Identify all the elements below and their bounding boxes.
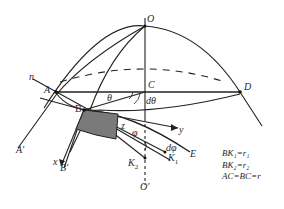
label-phi: φ xyxy=(132,128,138,138)
label-n: n xyxy=(29,72,34,82)
point-d xyxy=(238,90,242,94)
point-a xyxy=(54,90,58,94)
label-y: y xyxy=(179,125,183,135)
label-o: O xyxy=(147,14,154,24)
label-dphi: dφ xyxy=(166,143,177,153)
point-o xyxy=(144,25,147,28)
label-k1-text: K xyxy=(168,152,175,163)
label-e: E xyxy=(190,149,196,159)
label-a: A xyxy=(44,85,50,95)
legend-bk1: BK₁=r₁ xyxy=(222,148,261,160)
label-dtheta: dθ xyxy=(146,96,156,106)
label-d: D xyxy=(244,82,251,92)
shell-element-diagram: O C D A A' B B' E n x y z K1 K2 θ dθ φ d… xyxy=(0,0,284,209)
label-a-prime: A' xyxy=(16,145,24,155)
label-k2-text: K xyxy=(128,157,135,168)
point-b xyxy=(82,108,86,112)
legend: BK₁=r₁ BK₂=r₂ AC=BC=r xyxy=(222,148,261,183)
legend-bk2: BK₂=r₂ xyxy=(222,160,261,172)
point-k2 xyxy=(144,157,147,160)
label-z: z xyxy=(121,121,125,131)
legend-ac-bc: AC=BC=r xyxy=(222,171,261,183)
label-k2: K2 xyxy=(128,158,138,171)
label-b-prime: B' xyxy=(60,163,68,173)
line-lower xyxy=(115,128,170,160)
label-b: B xyxy=(75,104,82,114)
label-k1: K1 xyxy=(168,153,178,166)
label-x: x xyxy=(53,157,57,167)
label-k2-sub: 2 xyxy=(135,163,139,171)
label-c: C xyxy=(148,80,155,90)
parallel-circle-back xyxy=(60,69,225,82)
label-o-prime: O' xyxy=(140,182,149,192)
y-arrow-icon xyxy=(171,124,178,131)
shell-element xyxy=(76,110,118,139)
label-theta: θ xyxy=(107,93,112,103)
label-k1-sub: 1 xyxy=(175,158,179,166)
